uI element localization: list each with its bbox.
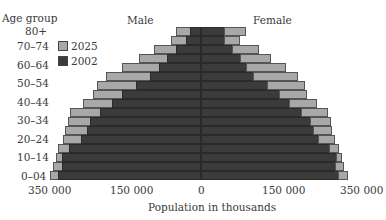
age-label-20: 20–24: [17, 133, 49, 145]
bar-female-2025: [279, 90, 307, 99]
x-tick-right-350000: 350 000: [340, 184, 383, 196]
legend-label-2002: 2002: [71, 55, 98, 67]
age-label-30: 30–34: [17, 114, 49, 126]
bar-male-2002: [87, 126, 201, 135]
age-label-80: 80+: [25, 25, 47, 37]
bar-male-2002: [62, 153, 201, 162]
age-label-60: 60–64: [17, 59, 49, 71]
x-tick-right-150000: 150 000: [262, 184, 305, 196]
bar-male-2002: [136, 81, 201, 90]
bar-male-2025: [122, 63, 160, 72]
age-label-10: 10–14: [17, 151, 49, 163]
bar-female-2025: [335, 162, 344, 171]
population-pyramid-chart: Age group Male Female 80+ 70–74 60–64 50…: [0, 0, 386, 220]
bar-female-2002: [201, 171, 339, 180]
bar-male-2025: [68, 117, 91, 126]
bar-female-2002: [201, 144, 330, 153]
bar-female-2025: [224, 27, 246, 36]
bar-male-2025: [70, 108, 101, 117]
bar-female-2025: [253, 72, 298, 81]
bar-female-2025: [310, 117, 331, 126]
bar-female-2002: [201, 27, 225, 36]
bar-male-2002: [190, 27, 201, 36]
bar-female-2002: [201, 117, 311, 126]
bar-male-2002: [159, 63, 201, 72]
bar-male-2002: [62, 162, 201, 171]
bar-female-2025: [336, 153, 342, 162]
bar-female-2025: [338, 171, 348, 180]
bar-male-2025: [97, 81, 137, 90]
bar-male-2025: [93, 90, 123, 99]
age-label-0: 0–04: [21, 170, 46, 182]
bar-female-2025: [240, 54, 271, 63]
bar-female-2025: [301, 108, 328, 117]
bar-female-2002: [201, 81, 268, 90]
legend-swatch-2025: [58, 41, 68, 51]
bar-female-2002: [201, 54, 241, 63]
bar-male-2002: [150, 72, 201, 81]
bar-female-2002: [201, 153, 337, 162]
bar-female-2025: [224, 36, 240, 45]
bar-male-2025: [139, 54, 168, 63]
bar-male-2025: [63, 135, 82, 144]
bar-male-2025: [171, 36, 187, 45]
bar-male-2025: [176, 27, 191, 36]
bar-female-2025: [246, 63, 286, 72]
x-tick-zero: 0: [198, 184, 205, 196]
bar-male-2002: [122, 90, 201, 99]
legend-swatch-2002: [58, 56, 68, 66]
bar-male-2002: [58, 171, 201, 180]
bar-female-2002: [201, 126, 314, 135]
male-label: Male: [127, 14, 154, 26]
bar-female-2025: [318, 135, 335, 144]
age-label-40: 40–44: [17, 96, 49, 108]
x-tick-left-150000: 150 000: [110, 184, 153, 196]
x-tick-left-350000: 350 000: [28, 184, 71, 196]
bar-male-2002: [176, 45, 201, 54]
bar-female-2025: [329, 144, 339, 153]
legend-label-2025: 2025: [71, 40, 98, 52]
bar-male-2002: [81, 135, 201, 144]
age-label-70: 70–74: [17, 40, 49, 52]
bar-female-2025: [232, 45, 259, 54]
bar-male-2025: [154, 45, 177, 54]
bar-female-2002: [201, 90, 280, 99]
bar-male-2002: [112, 99, 201, 108]
bar-female-2002: [201, 36, 225, 45]
bar-female-2025: [289, 99, 317, 108]
bar-female-2002: [201, 45, 233, 54]
bar-male-2025: [65, 126, 88, 135]
bar-male-2025: [83, 99, 113, 108]
bar-male-2002: [69, 144, 201, 153]
bar-female-2002: [201, 99, 290, 108]
bar-female-2002: [201, 72, 254, 81]
bar-male-2002: [167, 54, 201, 63]
bar-male-2002: [186, 36, 201, 45]
female-label: Female: [253, 14, 292, 26]
bar-male-2002: [100, 108, 201, 117]
bar-female-2002: [201, 135, 319, 144]
age-label-50: 50–54: [17, 77, 49, 89]
bar-male-2002: [90, 117, 201, 126]
bar-female-2002: [201, 162, 336, 171]
bar-female-2002: [201, 63, 247, 72]
x-axis-title: Population in thousands: [148, 201, 276, 213]
y-axis-title: Age group: [2, 12, 57, 24]
bar-female-2025: [267, 81, 305, 90]
bar-female-2025: [313, 126, 332, 135]
bar-male-2025: [106, 72, 151, 81]
bar-female-2002: [201, 108, 302, 117]
